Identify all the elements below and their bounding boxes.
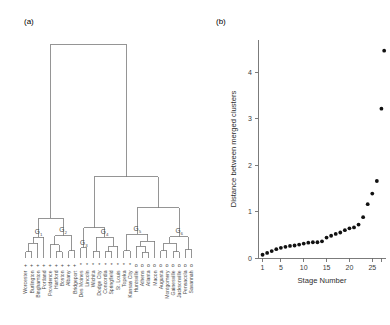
leaf-label: Albany	[65, 270, 71, 286]
leaf-symbol: o	[178, 262, 181, 268]
scatter-point	[380, 107, 384, 111]
scatter-point	[288, 244, 292, 248]
leaf-label: Hartford	[53, 270, 59, 289]
scatter-point	[357, 223, 361, 227]
scatter-point	[297, 243, 301, 247]
leaf-symbol: +	[36, 262, 39, 268]
scatter-point	[348, 226, 352, 230]
leaf-label: Springfield	[108, 270, 114, 294]
scatter-point	[279, 246, 283, 250]
leaf-label: Athens	[139, 270, 145, 286]
y-tick-label: 0	[248, 255, 252, 262]
leaf-label: St. Louis	[115, 270, 121, 290]
leaf-symbol: *	[98, 262, 101, 268]
leaf-symbol: *	[111, 262, 114, 268]
x-axis-title: Stage Number	[298, 276, 347, 285]
leaf-symbol: +	[42, 262, 45, 268]
scatter-point	[306, 241, 310, 245]
leaf-label: Huntsville	[133, 270, 139, 292]
leaf-label: Binghamton	[35, 270, 41, 297]
leaf-symbol: o	[172, 262, 175, 268]
x-tick-label: 20	[346, 264, 354, 271]
scatter-point	[325, 236, 329, 240]
leaf-label: Augusta	[158, 270, 164, 289]
scatter-point	[274, 247, 278, 251]
leaf-symbol: +	[67, 262, 70, 268]
leaf-symbol: o	[147, 262, 150, 268]
leaf-label: Topeka	[121, 270, 127, 287]
leaf-symbol: o	[184, 262, 187, 268]
scatter-point	[366, 202, 370, 206]
leaf-label: Wichita	[90, 270, 96, 287]
leaf-symbol: +	[55, 262, 58, 268]
leaf-label: Montgomery	[164, 270, 170, 299]
dendrogram-leaf-labels: +Worcester+Burlington+Binghamton+Portlan…	[22, 262, 194, 299]
leaf-label: Atlanta	[145, 270, 151, 286]
dendrogram-chart: G1G2G3G4G5G6 +Worcester+Burlington+Bingh…	[0, 0, 200, 325]
x-tick-label: 10	[300, 264, 308, 271]
leaf-symbol: +	[73, 262, 76, 268]
leaf-symbol: *	[92, 262, 95, 268]
leaf-symbol: o	[165, 262, 168, 268]
leaf-label: Burlington	[29, 270, 35, 293]
scatter-point	[352, 225, 356, 229]
leaf-symbol: *	[123, 262, 126, 268]
y-tick-label: 3	[248, 115, 252, 122]
scatter-point	[382, 49, 386, 53]
leaf-symbol: o	[141, 262, 144, 268]
scatter-point	[265, 251, 269, 255]
leaf-symbol: *	[117, 262, 120, 268]
x-tick-label: 15	[323, 264, 331, 271]
scatter-point	[334, 232, 338, 236]
leaf-label: Worcester	[22, 270, 28, 293]
leaf-label: Gainesville	[170, 270, 176, 295]
scatter-point	[302, 242, 306, 246]
leaf-symbol: o	[153, 262, 156, 268]
leaf-symbol: +	[24, 262, 27, 268]
scatter-point	[361, 215, 365, 219]
leaf-symbol: +	[30, 262, 33, 268]
leaf-symbol: o	[159, 262, 162, 268]
scatter-point	[375, 179, 379, 183]
leaf-label: Macon	[152, 270, 158, 285]
dendrogram-group-labels: G1G2G3G4G5G6	[35, 225, 184, 248]
scatter-point	[293, 244, 297, 248]
leaf-symbol: o	[135, 262, 138, 268]
scatter-point	[329, 234, 333, 238]
scatter-point	[338, 231, 342, 235]
leaf-label: Lincoln	[84, 270, 90, 286]
scatter-point	[320, 239, 324, 243]
leaf-label: Providence	[47, 270, 53, 296]
scree-scatter-chart: 012341510152025 Stage Number Distance be…	[200, 0, 390, 325]
scatter-point	[261, 253, 265, 257]
leaf-symbol: o	[190, 262, 193, 268]
scatter-point	[343, 228, 347, 232]
x-tick-label: 5	[279, 264, 283, 271]
leaf-symbol: *	[80, 262, 83, 268]
leaf-symbol: +	[61, 262, 64, 268]
y-tick-label: 4	[248, 69, 252, 76]
leaf-label: Concordia	[102, 270, 108, 293]
leaf-label: Pensacola	[182, 270, 188, 294]
scatter-point	[370, 192, 374, 196]
scatter-ticks	[255, 72, 382, 261]
leaf-symbol: +	[49, 262, 52, 268]
scatter-tick-labels: 012341510152025	[248, 69, 376, 270]
y-axis-title: Distance between merged clusters	[229, 91, 238, 208]
scatter-axes	[258, 40, 386, 258]
x-tick-label: 25	[368, 264, 376, 271]
leaf-label: Boston	[59, 270, 65, 286]
scatter-points	[261, 49, 386, 257]
scatter-point	[316, 240, 320, 244]
y-tick-label: 1	[248, 208, 252, 215]
x-tick-label: 1	[261, 264, 265, 271]
figure-root: (a) (b) G1G2G3G4G5G6 +Worcester+Burlingt…	[0, 0, 390, 325]
dendrogram-links	[26, 44, 192, 258]
leaf-symbol: *	[104, 262, 107, 268]
leaf-label: Bridgeport	[72, 270, 78, 294]
leaf-label: Des Moines	[78, 270, 84, 297]
leaf-label: Jacksonville	[176, 270, 182, 298]
leaf-label: Savannah	[188, 270, 194, 293]
leaf-symbol: *	[86, 262, 89, 268]
leaf-label: Portland	[41, 270, 47, 289]
